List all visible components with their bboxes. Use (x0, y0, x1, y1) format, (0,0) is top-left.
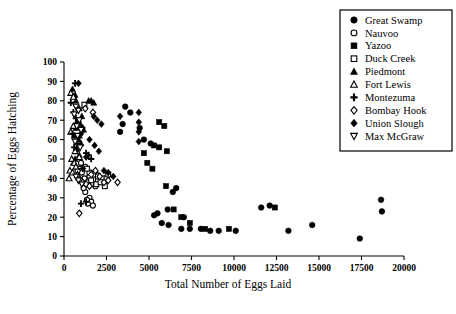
y-tick-label: 50 (48, 154, 58, 164)
data-point (150, 166, 155, 171)
data-point (187, 226, 193, 232)
legend-label: Fort Lewis (365, 79, 411, 90)
x-tick-label: 12500 (265, 263, 289, 273)
data-point (89, 178, 94, 183)
legend-label: Montezuma (365, 92, 415, 103)
data-point (378, 197, 384, 203)
legend-label: Nauvoo (365, 28, 398, 39)
y-tick-label: 20 (48, 213, 58, 223)
y-tick-label: 70 (48, 116, 58, 126)
x-tick-label: 7500 (182, 263, 201, 273)
data-point (163, 184, 168, 189)
data-point (78, 160, 83, 165)
legend-label: Bombay Hook (365, 105, 427, 116)
legend: Great SwampNauvooYazooDuck CreekPiedmont… (340, 10, 452, 151)
data-point (136, 138, 142, 145)
y-tick-label: 90 (48, 77, 58, 87)
data-point (233, 228, 239, 234)
data-point (357, 236, 363, 242)
data-point (141, 151, 146, 156)
data-point (258, 205, 264, 211)
y-tick-label: 10 (48, 232, 58, 242)
data-point (152, 143, 157, 148)
data-point (136, 109, 142, 116)
filled-circle-icon (351, 17, 357, 23)
data-point (155, 211, 161, 217)
data-point (203, 226, 208, 231)
legend-label: Piedmont (365, 66, 405, 77)
data-point (87, 136, 93, 143)
data-point (178, 226, 184, 232)
y-tick-label: 0 (52, 251, 57, 261)
data-point (92, 142, 98, 149)
data-point (110, 173, 116, 180)
x-tick-label: 10000 (222, 263, 246, 273)
data-point (96, 148, 102, 155)
series-yazoo (141, 120, 277, 232)
legend-label: Union Slough (365, 118, 424, 129)
legend-label: Max McGraw (365, 131, 425, 142)
data-point (117, 129, 123, 135)
filled-square-icon (351, 43, 357, 49)
data-point (207, 228, 213, 234)
y-tick-label: 80 (48, 96, 58, 106)
data-point (226, 226, 231, 231)
y-tick-label: 60 (48, 135, 58, 145)
data-points-layer (66, 80, 385, 241)
data-point (77, 210, 82, 216)
data-point (76, 154, 82, 160)
data-point (115, 179, 120, 185)
data-point (165, 207, 171, 213)
data-point (187, 220, 192, 225)
data-point (162, 123, 167, 128)
x-tick-label: 20000 (392, 263, 416, 273)
data-point (286, 228, 292, 234)
open-circle-icon (351, 30, 357, 36)
y-axis-title: Percentage of Eggs Hatching (6, 92, 19, 226)
data-point (309, 222, 315, 228)
x-tick-label: 17500 (350, 263, 374, 273)
legend-label: Yazoo (365, 40, 391, 51)
data-point (99, 121, 105, 128)
x-tick-label: 2500 (97, 263, 116, 273)
legend-label: Great Swamp (365, 15, 422, 26)
data-point (90, 203, 95, 208)
data-point (173, 185, 179, 191)
open-square-icon (351, 56, 357, 62)
data-point (120, 121, 126, 127)
x-axis-title: Total Number of Eggs Laid (165, 278, 292, 291)
data-point (145, 160, 150, 165)
data-point (157, 145, 162, 150)
data-point (157, 120, 162, 125)
data-point (171, 207, 176, 212)
data-point (272, 205, 277, 210)
data-point (166, 222, 172, 228)
data-point (216, 228, 222, 234)
data-point (179, 215, 184, 220)
y-tick-label: 40 (48, 174, 58, 184)
chart-canvas: 0102030405060708090100025005000750010000… (0, 0, 456, 314)
x-tick-label: 0 (62, 263, 67, 273)
data-point (267, 203, 273, 209)
data-point (136, 119, 142, 126)
y-tick-label: 100 (43, 57, 58, 67)
y-tick-label: 30 (48, 193, 58, 203)
data-point (127, 110, 133, 116)
data-point (122, 104, 128, 110)
data-point (379, 209, 385, 215)
x-tick-label: 15000 (307, 263, 331, 273)
data-point (164, 149, 169, 154)
data-point (66, 175, 72, 181)
data-point (117, 113, 123, 120)
data-point (159, 220, 165, 226)
data-point (76, 80, 82, 87)
legend-label: Duck Creek (365, 53, 416, 64)
scatter-plot-figure: 0102030405060708090100025005000750010000… (0, 0, 456, 314)
x-tick-label: 5000 (140, 263, 159, 273)
